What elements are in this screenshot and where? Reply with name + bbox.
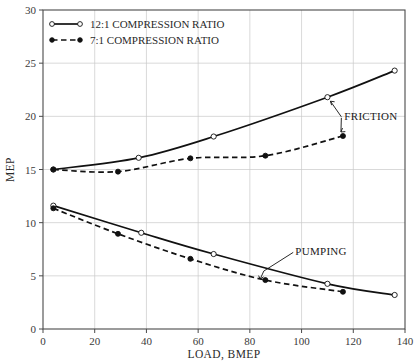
- data-point-friction: [115, 169, 120, 174]
- pumping-leader: [260, 252, 293, 279]
- x-tick-label: 100: [293, 335, 310, 347]
- data-point-pumping: [51, 206, 56, 211]
- data-point-friction: [51, 167, 56, 172]
- x-tick-label: 60: [193, 335, 205, 347]
- x-tick-label: 40: [141, 335, 153, 347]
- data-point-friction: [136, 155, 141, 160]
- x-axis-title: LOAD, BMEP: [187, 348, 260, 361]
- legend-marker-1: [78, 38, 83, 43]
- data-point-pumping: [325, 281, 330, 286]
- data-point-pumping: [115, 231, 120, 236]
- data-point-pumping: [211, 251, 216, 256]
- data-point-friction: [392, 68, 397, 73]
- chart-canvas: 020406080100120140051015202530LOAD, BMEP…: [0, 0, 417, 364]
- data-point-pumping: [263, 278, 268, 283]
- pumping-annotation-label: PUMPING: [295, 245, 347, 257]
- x-tick-label: 20: [89, 335, 101, 347]
- y-tick-label: 30: [25, 4, 37, 16]
- x-tick-label: 80: [244, 335, 256, 347]
- x-tick-label: 140: [397, 335, 414, 347]
- legend-marker-0: [50, 22, 55, 27]
- data-point-friction: [211, 134, 216, 139]
- legend-label-0: 12:1 COMPRESSION RATIO: [90, 18, 225, 30]
- friction-leader-upper: [330, 101, 341, 117]
- data-point-friction: [188, 156, 193, 161]
- x-tick-label: 120: [345, 335, 362, 347]
- y-tick-label: 10: [25, 217, 37, 229]
- y-axis-title: MEP: [4, 157, 16, 182]
- legend-marker-0: [78, 22, 83, 27]
- data-point-pumping: [392, 292, 397, 297]
- data-point-friction: [325, 95, 330, 100]
- data-point-pumping: [340, 289, 345, 294]
- data-point-friction: [340, 134, 345, 139]
- y-tick-label: 20: [25, 110, 37, 122]
- legend-marker-1: [50, 38, 55, 43]
- x-tick-label: 0: [40, 335, 46, 347]
- chart-container: 020406080100120140051015202530LOAD, BMEP…: [0, 0, 417, 364]
- data-point-pumping: [139, 230, 144, 235]
- data-point-friction: [263, 153, 268, 158]
- friction-arrowhead-lower: [341, 128, 345, 132]
- y-tick-label: 15: [25, 164, 37, 176]
- data-point-pumping: [188, 256, 193, 261]
- y-tick-label: 5: [31, 270, 37, 282]
- legend-label-1: 7:1 COMPRESSION RATIO: [90, 34, 219, 46]
- y-tick-label: 25: [25, 57, 37, 69]
- friction-annotation-label: FRICTION: [344, 110, 397, 122]
- y-tick-label: 0: [31, 323, 37, 335]
